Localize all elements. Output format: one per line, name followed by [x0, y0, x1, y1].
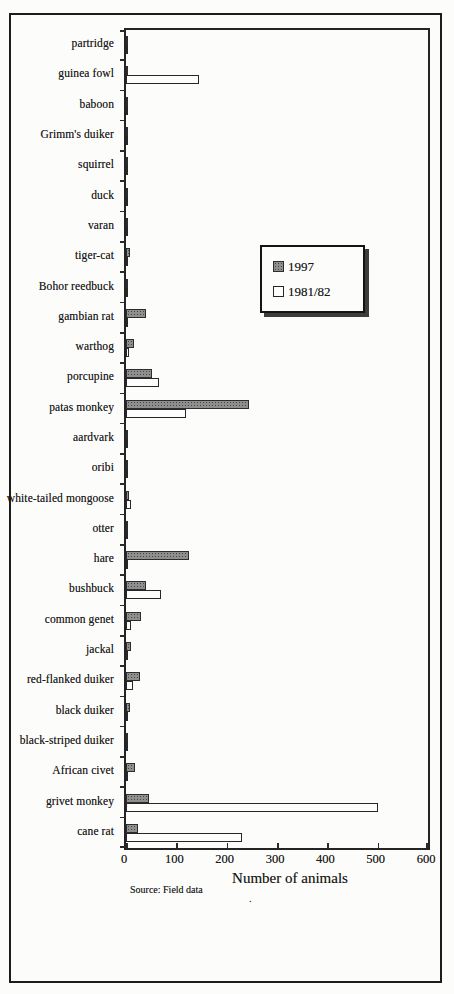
bar-1981-grimm-s-duiker: [126, 136, 128, 145]
bar-1997-patas-monkey: [126, 400, 249, 409]
x-axis-tick: [378, 843, 380, 848]
bar-1997-aardvark: [126, 430, 128, 439]
category-label: guinea fowl: [58, 67, 114, 79]
bar-1997-gambian-rat: [126, 309, 146, 318]
bar-1981-squirrel: [126, 166, 128, 175]
bar-1981-jackal: [126, 651, 128, 660]
bar-1981-otter: [126, 530, 128, 539]
legend: 1997 1981/82: [260, 245, 365, 313]
bar-1981-black-duiker: [126, 712, 128, 721]
bar-1997-warthog: [126, 339, 134, 348]
bar-1981-guinea-fowl: [126, 75, 199, 84]
category-label: grivet monkey: [46, 795, 114, 807]
bar-1997-bushbuck: [126, 581, 146, 590]
category-label: red-flanked duiker: [27, 673, 114, 685]
bar-1997-red-flanked-duiker: [126, 672, 140, 681]
category-label: African civet: [52, 764, 114, 776]
bar-1981-red-flanked-duiker: [126, 681, 133, 690]
bar-1997-duck: [126, 188, 128, 197]
bar-1997-cane-rat: [126, 824, 138, 833]
legend-swatch-1981-icon: [273, 286, 284, 297]
bar-1997-oribi: [126, 460, 128, 469]
category-label: common genet: [45, 613, 114, 625]
bar-1997-grivet-monkey: [126, 794, 149, 803]
bar-1981-black-striped-duiker: [126, 742, 128, 751]
bar-1997-jackal: [126, 642, 131, 651]
category-label: black duiker: [56, 704, 114, 716]
scan-artifact-dot: .: [249, 892, 252, 904]
category-label: aardvark: [73, 431, 114, 443]
bar-1997-black-duiker: [126, 703, 130, 712]
bar-1981-tiger-cat: [126, 257, 128, 266]
x-axis-tick: [176, 843, 178, 848]
x-axis-tick-label: 400: [304, 852, 346, 867]
y-axis-tick: [120, 120, 125, 122]
bar-1997-otter: [126, 521, 128, 530]
y-axis-tick: [120, 362, 125, 364]
category-label: cane rat: [77, 825, 114, 837]
bar-1997-baboon: [126, 97, 128, 106]
x-axis-tick-label: 600: [405, 852, 447, 867]
y-axis-tick: [120, 180, 125, 182]
page: partridgeguinea fowlbaboonGrimm's duiker…: [0, 0, 454, 994]
x-axis-tick: [327, 843, 329, 848]
y-axis-tick: [120, 332, 125, 334]
category-label: patas monkey: [49, 401, 114, 413]
x-axis-tick-label: 500: [355, 852, 397, 867]
bar-1981-aardvark: [126, 439, 128, 448]
x-axis-tick-label: 200: [204, 852, 246, 867]
y-axis-tick: [120, 544, 125, 546]
legend-label-1997: 1997: [288, 259, 314, 275]
plot-area: 1997 1981/82: [124, 28, 430, 850]
y-axis-tick: [120, 574, 125, 576]
category-label: porcupine: [67, 370, 114, 382]
bar-1981-porcupine: [126, 378, 159, 387]
category-label: bushbuck: [69, 582, 114, 594]
category-label: gambian rat: [58, 310, 114, 322]
y-axis-tick: [120, 59, 125, 61]
legend-swatch-1997-icon: [273, 261, 284, 272]
bar-1981-common-genet: [126, 621, 131, 630]
bar-1981-hare: [126, 560, 128, 569]
bar-1981-baboon: [126, 106, 128, 115]
bar-1981-cane-rat: [126, 833, 242, 842]
category-label: otter: [92, 522, 114, 534]
y-axis-tick: [120, 665, 125, 667]
legend-label-1981: 1981/82: [288, 284, 331, 300]
bar-1997-bohor-reedbuck: [126, 279, 128, 288]
category-label: Bohor reedbuck: [39, 280, 114, 292]
category-label: jackal: [86, 643, 114, 655]
bar-1981-grivet-monkey: [126, 803, 378, 812]
y-axis-tick: [120, 605, 125, 607]
y-axis-tick: [120, 90, 125, 92]
category-label: baboon: [80, 98, 114, 110]
bar-1981-white-tailed-mongoose: [126, 500, 131, 509]
bar-1997-varan: [126, 218, 128, 227]
y-axis-tick: [120, 726, 125, 728]
category-label: squirrel: [78, 158, 114, 170]
source-note: Source: Field data: [130, 884, 203, 895]
x-axis-tick: [426, 843, 428, 848]
y-axis-tick: [120, 30, 125, 32]
bar-1997-common-genet: [126, 612, 141, 621]
bar-1981-bohor-reedbuck: [126, 288, 128, 297]
category-label: duck: [91, 189, 114, 201]
bar-1981-african-civet: [126, 772, 128, 781]
y-axis-tick: [120, 423, 125, 425]
x-axis-tick-label: 300: [254, 852, 296, 867]
y-axis-tick: [120, 271, 125, 273]
category-label: hare: [94, 552, 114, 564]
y-axis-tick: [120, 453, 125, 455]
x-axis-tick: [126, 843, 128, 848]
category-label: varan: [88, 219, 114, 231]
bar-1997-squirrel: [126, 157, 128, 166]
bar-1981-duck: [126, 197, 128, 206]
legend-item-1981: 1981/82: [273, 279, 357, 304]
y-axis-tick: [120, 786, 125, 788]
legend-item-1997: 1997: [273, 254, 357, 279]
bar-1997-african-civet: [126, 763, 135, 772]
bar-1997-white-tailed-mongoose: [126, 491, 129, 500]
category-label: black-striped duiker: [20, 734, 114, 746]
bar-1997-black-striped-duiker: [126, 733, 128, 742]
bar-1981-varan: [126, 227, 128, 236]
